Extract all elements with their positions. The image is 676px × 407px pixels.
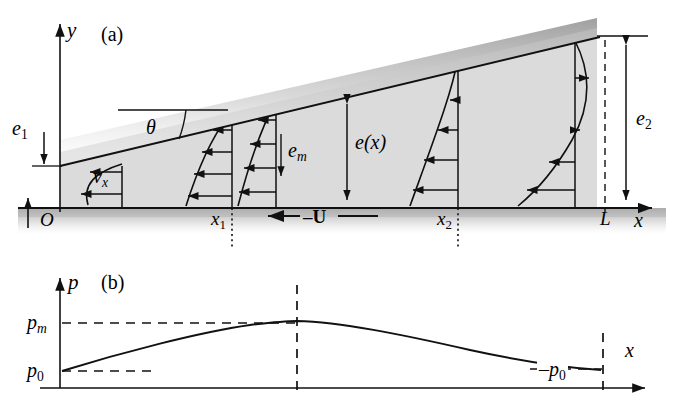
pressure-curve	[62, 321, 601, 371]
velocity-label: vx	[93, 166, 108, 189]
figure-root: y (a) O L x e1 e2 em e(x) θ vx –U x1 x2 …	[0, 0, 676, 407]
wall-velocity-label: –U	[303, 207, 326, 226]
mid-gap-label: em	[288, 140, 307, 163]
station1-label: x1	[211, 209, 226, 232]
p-outlet-label: –p0	[537, 359, 568, 382]
moving-base-surface	[18, 208, 666, 234]
figure-svg	[0, 0, 676, 407]
panel-b-p-axis-label: p	[68, 272, 79, 293]
p-inlet-label: p0	[27, 360, 44, 383]
panel-b-x-axis-label: x	[625, 340, 634, 360]
outlet-gap-label: e2	[636, 108, 652, 131]
panel-a-length-label: L	[600, 209, 611, 228]
inlet-gap-indicator	[32, 132, 62, 166]
station2-label: x2	[437, 209, 452, 232]
theta-label: θ	[146, 117, 156, 137]
panel-a-origin-label: O	[40, 210, 54, 229]
panel-a-y-axis-label: y	[67, 20, 76, 41]
panel-b-tag: (b)	[101, 272, 124, 292]
inlet-gap-label: e1	[12, 118, 28, 141]
p-max-label: pm	[27, 312, 47, 335]
panel-a-x-axis-label: x	[634, 210, 643, 230]
gap-function-label: e(x)	[355, 132, 386, 152]
panel-a-tag: (a)	[101, 24, 123, 44]
